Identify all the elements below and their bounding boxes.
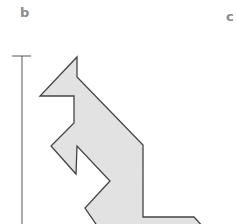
tangram-figure [0,0,237,224]
tangram-silhouette [40,57,206,224]
scale-bar [12,56,31,224]
